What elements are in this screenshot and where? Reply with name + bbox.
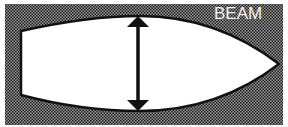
beam-label: BEAM [214, 5, 262, 22]
